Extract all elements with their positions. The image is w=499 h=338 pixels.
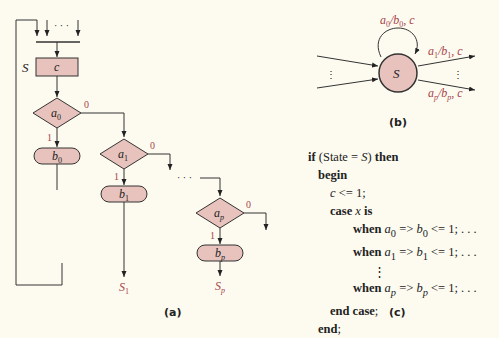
mid-dots: · · · — [177, 172, 192, 183]
state-node-label: S — [393, 66, 400, 81]
caption-b: (b) — [389, 116, 407, 129]
a1-false-label: 0 — [150, 140, 155, 151]
state-label: S — [22, 60, 29, 75]
out-vdots: ⋮ — [453, 69, 463, 80]
code-line-end-case: end case; — [308, 302, 477, 320]
sp-label: Sp — [215, 279, 225, 295]
panel-b — [317, 28, 475, 92]
code-line-if: if (State = S) then — [308, 148, 477, 166]
code-line-end: end; — [308, 320, 477, 338]
code-listing: if (State = S) then begin c <= 1; case x… — [308, 148, 477, 338]
code-line-when-1: when a1 => b1 <= 1; . . . — [308, 243, 477, 266]
entry-dots: · · · — [54, 20, 69, 31]
code-line-when-0: when a0 => b0 <= 1; . . . — [308, 220, 477, 243]
s1-label: S1 — [119, 280, 129, 296]
a0-false-label: 0 — [84, 99, 89, 110]
ap-true-label: 1 — [210, 230, 215, 241]
self-loop-label: a0/b0, c — [380, 13, 415, 29]
code-line-case: case x is — [308, 202, 477, 220]
edge-1-label: a1/b1, c — [428, 44, 463, 60]
code-line-begin: begin — [308, 166, 477, 184]
a1-true-label: 1 — [114, 171, 119, 182]
edge-p-label: ap/bp, c — [428, 86, 463, 102]
code-line-when-p: when ap => bp <= 1; . . . — [308, 279, 477, 302]
caption-a: (a) — [164, 306, 181, 319]
ap-false-label: 0 — [246, 199, 251, 210]
code-line-assign: c <= 1; — [308, 184, 477, 202]
in-vdots: ⋮ — [326, 69, 336, 80]
code-vdots: ⋮ — [308, 265, 477, 279]
a0-true-label: 1 — [47, 132, 52, 143]
state-box-label: c — [54, 60, 60, 74]
